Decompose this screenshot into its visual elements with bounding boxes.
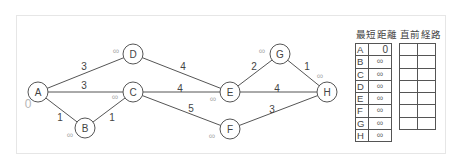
distance-node-cell: E xyxy=(356,93,369,105)
distance-value-cell: ∞ xyxy=(369,105,392,117)
distance-row-f: F∞ xyxy=(356,105,392,117)
previous-path-row xyxy=(400,56,436,68)
graph-diagram: 33114452413A0B∞C∞D∞E∞F∞G∞H∞ xyxy=(0,0,463,168)
node-label: E xyxy=(227,87,234,98)
distance-value-cell: ∞ xyxy=(369,80,392,92)
previous-path-cell xyxy=(418,93,436,105)
previous-path-table xyxy=(399,43,436,130)
previous-path-row xyxy=(400,105,436,117)
previous-path-cell xyxy=(400,68,418,80)
distance-node-cell: A xyxy=(356,44,369,56)
node-distance-c: ∞ xyxy=(112,92,118,102)
node-distance-d: ∞ xyxy=(113,46,119,56)
edge-weight-a-b: 1 xyxy=(57,112,63,123)
distance-node-cell: F xyxy=(356,105,369,117)
previous-path-cell xyxy=(418,80,436,92)
node-b: B xyxy=(75,118,95,138)
edge-weight-d-e: 4 xyxy=(180,61,186,72)
node-label: H xyxy=(323,87,330,98)
node-label: D xyxy=(129,49,136,60)
node-label: A xyxy=(35,87,42,98)
distance-node-cell: G xyxy=(356,117,369,129)
previous-path-cell xyxy=(400,105,418,117)
distance-node-cell: H xyxy=(356,129,369,141)
node-g: G xyxy=(270,44,290,64)
previous-path-row xyxy=(400,44,436,56)
distance-node-cell: D xyxy=(356,80,369,92)
previous-path-header: 直前経路 xyxy=(400,27,441,41)
previous-path-cell xyxy=(418,44,436,56)
previous-path-cell xyxy=(418,68,436,80)
node-distance-e: ∞ xyxy=(210,94,216,104)
distance-value-cell: ∞ xyxy=(369,68,392,80)
node-h: H xyxy=(317,82,337,102)
distance-value-cell: ∞ xyxy=(369,129,392,141)
previous-path-cell xyxy=(418,56,436,68)
distance-node-cell: B xyxy=(356,56,369,68)
previous-path-cell xyxy=(400,44,418,56)
shortest-distance-table: A0B∞C∞D∞E∞F∞G∞H∞ xyxy=(355,43,392,142)
previous-path-row xyxy=(400,68,436,80)
node-e: E xyxy=(220,82,240,102)
node-f: F xyxy=(220,119,240,139)
distance-value-cell: ∞ xyxy=(369,56,392,68)
node-label: B xyxy=(82,123,89,134)
distance-value-cell: ∞ xyxy=(369,117,392,129)
node-distance-b: ∞ xyxy=(67,130,73,140)
distance-row-d: D∞ xyxy=(356,80,392,92)
node-c: C xyxy=(123,82,143,102)
distance-row-e: E∞ xyxy=(356,93,392,105)
previous-path-cell xyxy=(418,117,436,129)
node-d: D xyxy=(123,44,143,64)
previous-path-row xyxy=(400,80,436,92)
edge-weight-a-d: 3 xyxy=(81,61,87,72)
edge-weight-e-g: 2 xyxy=(251,61,257,72)
node-label: G xyxy=(276,49,284,60)
node-distance-f: ∞ xyxy=(209,131,215,141)
previous-path-row xyxy=(400,117,436,129)
edge-weight-c-f: 5 xyxy=(188,103,194,114)
distance-row-g: G∞ xyxy=(356,117,392,129)
edge-weight-c-e: 4 xyxy=(177,83,183,94)
edge-weight-b-c: 1 xyxy=(109,112,115,123)
previous-path-cell xyxy=(400,117,418,129)
node-distance-a: 0 xyxy=(25,97,32,111)
distance-row-a: A0 xyxy=(356,44,392,56)
distance-row-h: H∞ xyxy=(356,129,392,141)
previous-path-cell xyxy=(418,105,436,117)
shortest-distance-header: 最短距離 xyxy=(356,27,397,41)
previous-path-row xyxy=(400,93,436,105)
node-distance-h: ∞ xyxy=(317,71,323,81)
previous-path-cell xyxy=(400,80,418,92)
edge-weight-a-c: 3 xyxy=(81,80,87,91)
distance-row-b: B∞ xyxy=(356,56,392,68)
distance-value-cell: ∞ xyxy=(369,93,392,105)
edge-weight-g-h: 1 xyxy=(304,61,310,72)
edge-weight-f-h: 3 xyxy=(269,104,275,115)
distance-node-cell: C xyxy=(356,68,369,80)
node-label: F xyxy=(227,124,233,135)
node-label: C xyxy=(129,87,136,98)
edge-weight-e-h: 4 xyxy=(274,83,280,94)
node-distance-g: ∞ xyxy=(259,46,265,56)
distance-value-cell: 0 xyxy=(369,44,392,56)
edge-f-h xyxy=(230,92,327,129)
previous-path-cell xyxy=(400,56,418,68)
previous-path-cell xyxy=(400,93,418,105)
distance-row-c: C∞ xyxy=(356,68,392,80)
